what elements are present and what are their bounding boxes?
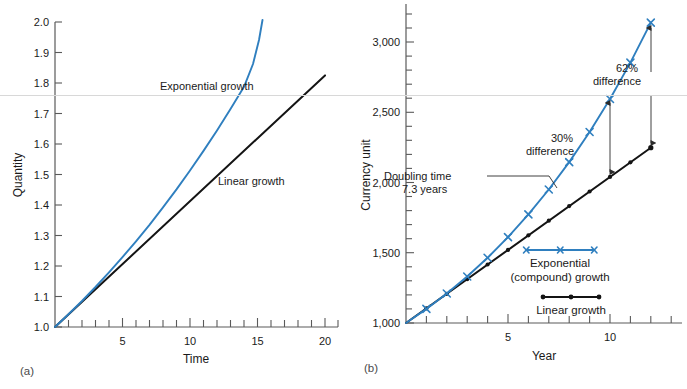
legend-exponential-label-line2: (compound) growth [510, 271, 609, 283]
y-axis-title: Quantity [11, 153, 25, 198]
y-tick-label: 1.2 [34, 260, 49, 272]
x-tick-labels: 5 10 [505, 331, 616, 343]
linear-growth-label: Linear growth [218, 175, 285, 187]
x-tick-label: 15 [251, 335, 263, 347]
y-tick-label: 1.3 [34, 230, 49, 242]
exponential-growth-curve [55, 20, 263, 327]
legend: Exponential (compound) growth Linear gro… [510, 247, 609, 316]
panel-b: 1,000 1,500 2,000 2,500 3,000 [344, 0, 687, 389]
y-tick-label: 1.4 [34, 199, 49, 211]
doubling-time-line1: Doubling time [384, 170, 451, 182]
x-axis-title: Year [532, 349, 556, 363]
x-tick-labels: 5 10 15 20 [119, 335, 331, 347]
y-axis-title: Currency unit [359, 139, 373, 211]
y-tick-label: 1,000 [372, 317, 400, 329]
panel-a-axes [55, 22, 338, 327]
y-ticks [55, 22, 62, 327]
panel-tag-a: (a) [20, 365, 34, 377]
y-tick-label: 1.9 [34, 47, 49, 59]
difference-30-line1: 30% [551, 132, 573, 144]
y-tick-label: 1.7 [34, 108, 49, 120]
doubling-time-line2: 7.3 years [402, 183, 448, 195]
x-tick-label: 5 [119, 335, 125, 347]
figure-root: 1.0 1.1 1.2 1.3 1.4 1.5 1.6 1.7 1.8 1.9 … [0, 0, 687, 389]
y-tick-label: 3,000 [372, 36, 400, 48]
legend-linear-label: Linear growth [536, 304, 606, 316]
x-tick-label: 10 [604, 331, 616, 343]
y-tick-label: 2.0 [34, 16, 49, 28]
panel-a-plot: 1.0 1.1 1.2 1.3 1.4 1.5 1.6 1.7 1.8 1.9 … [0, 0, 344, 389]
x-tick-label: 10 [184, 335, 196, 347]
exponential-growth-label: Exponential growth [160, 80, 254, 92]
x-axis-title: Time [183, 352, 210, 366]
y-tick-labels: 1.0 1.1 1.2 1.3 1.4 1.5 1.6 1.7 1.8 1.9 … [34, 16, 49, 333]
y-tick-label: 1.1 [34, 291, 49, 303]
x-tick-label: 20 [319, 335, 331, 347]
linear-growth-line [55, 75, 325, 327]
y-ticks-minor [406, 14, 412, 309]
y-tick-label: 2,500 [372, 106, 400, 118]
y-tick-labels: 1,000 1,500 2,000 2,500 3,000 [372, 36, 400, 329]
panel-b-plot: 1,000 1,500 2,000 2,500 3,000 [344, 0, 687, 389]
y-tick-label: 1.5 [34, 169, 49, 181]
difference-62-line2: difference [593, 75, 641, 87]
difference-62-line1: 62% [616, 62, 638, 74]
y-tick-label: 1,500 [372, 247, 400, 259]
x-tick-label: 5 [505, 331, 511, 343]
panel-tag-b: (b) [364, 362, 378, 374]
difference-30-line2: difference [526, 145, 574, 157]
x-ticks [69, 318, 339, 327]
panel-a: 1.0 1.1 1.2 1.3 1.4 1.5 1.6 1.7 1.8 1.9 … [0, 0, 344, 389]
y-tick-label: 1.6 [34, 138, 49, 150]
legend-exponential-label-line1: Exponential [530, 257, 590, 269]
y-tick-label: 1.0 [34, 321, 49, 333]
y-tick-label: 1.8 [34, 77, 49, 89]
